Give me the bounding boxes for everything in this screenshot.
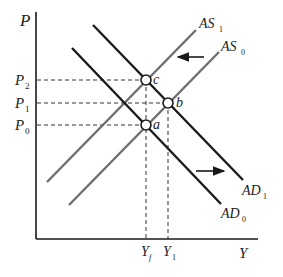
svg-text:1: 1 — [263, 192, 267, 201]
svg-text:0: 0 — [242, 215, 246, 224]
svg-text:AD: AD — [220, 206, 240, 221]
svg-text:f: f — [149, 253, 153, 262]
svg-text:0: 0 — [241, 48, 245, 57]
svg-text:1: 1 — [219, 25, 223, 34]
output-label-y1: Y 1 — [163, 244, 176, 262]
point-b-label: b — [176, 95, 183, 110]
svg-text:AS: AS — [220, 39, 237, 54]
point-c — [141, 75, 151, 85]
ad0-label: AD 0 — [220, 206, 246, 224]
svg-text:2: 2 — [25, 81, 30, 91]
output-label-yf: Y f — [141, 244, 153, 262]
y-axis-label: P — [19, 11, 30, 30]
svg-text:P: P — [14, 72, 24, 88]
price-label-p1: P 1 — [14, 95, 30, 114]
point-a-label: a — [153, 117, 160, 132]
svg-text:0: 0 — [25, 126, 30, 136]
svg-text:P: P — [14, 95, 24, 111]
as0-label: AS 0 — [220, 39, 245, 57]
svg-text:1: 1 — [25, 104, 30, 114]
price-label-p2: P 2 — [14, 72, 30, 91]
ad1-label: AD 1 — [241, 183, 267, 201]
svg-text:AD: AD — [241, 183, 261, 198]
svg-text:AS: AS — [198, 16, 215, 31]
ad-as-diagram: c b a P Y P 2 P 1 P 0 Y f Y 1 AS 1 AS 0 … — [0, 0, 283, 277]
point-b — [163, 98, 173, 108]
point-a — [141, 120, 151, 130]
price-guides — [37, 80, 168, 125]
x-axis-label: Y — [239, 245, 249, 261]
point-c-label: c — [153, 72, 160, 87]
price-label-p0: P 0 — [14, 117, 30, 136]
svg-text:P: P — [14, 117, 24, 133]
svg-text:1: 1 — [172, 253, 176, 262]
as1-label: AS 1 — [198, 16, 223, 34]
